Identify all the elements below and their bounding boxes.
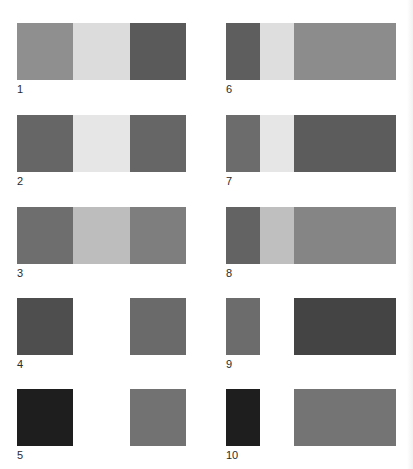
panel-number-label: 1 <box>17 84 23 95</box>
right-swatch <box>130 23 186 80</box>
center-swatch <box>260 298 294 355</box>
right-swatch <box>130 115 186 172</box>
panel-number-label: 7 <box>226 176 232 187</box>
swatch-strip <box>17 207 186 264</box>
left-swatch <box>226 115 260 172</box>
right-swatch <box>294 207 396 264</box>
center-swatch <box>73 207 130 264</box>
swatch-strip <box>226 23 396 80</box>
panel-number-label: 3 <box>17 268 23 279</box>
swatch-strip <box>17 298 186 355</box>
right-swatch <box>130 389 186 446</box>
left-swatch <box>17 298 73 355</box>
swatch-strip <box>226 389 396 446</box>
right-swatch <box>130 298 186 355</box>
swatch-strip <box>17 115 186 172</box>
center-swatch <box>260 389 294 446</box>
left-swatch <box>226 23 260 80</box>
swatch-strip <box>17 23 186 80</box>
page-gutter-shadow <box>407 0 413 469</box>
left-swatch <box>226 389 260 446</box>
swatch-strip <box>226 207 396 264</box>
right-swatch <box>294 389 396 446</box>
center-swatch <box>73 23 130 80</box>
panel-number-label: 5 <box>17 450 23 461</box>
center-swatch <box>73 389 130 446</box>
center-swatch <box>73 115 130 172</box>
panel-number-label: 2 <box>17 176 23 187</box>
center-swatch <box>260 207 294 264</box>
swatch-strip <box>226 298 396 355</box>
right-swatch <box>294 23 396 80</box>
center-swatch <box>260 115 294 172</box>
right-swatch <box>130 207 186 264</box>
panel-number-label: 8 <box>226 268 232 279</box>
left-swatch <box>17 115 73 172</box>
left-swatch <box>226 298 260 355</box>
center-swatch <box>260 23 294 80</box>
panel-number-label: 9 <box>226 359 232 370</box>
panel-number-label: 10 <box>226 450 238 461</box>
center-swatch <box>73 298 130 355</box>
left-swatch <box>17 23 73 80</box>
left-swatch <box>17 207 73 264</box>
panel-number-label: 6 <box>226 84 232 95</box>
swatch-strip <box>226 115 396 172</box>
left-swatch <box>226 207 260 264</box>
right-swatch <box>294 298 396 355</box>
swatch-strip <box>17 389 186 446</box>
panel-number-label: 4 <box>17 359 23 370</box>
right-swatch <box>294 115 396 172</box>
left-swatch <box>17 389 73 446</box>
